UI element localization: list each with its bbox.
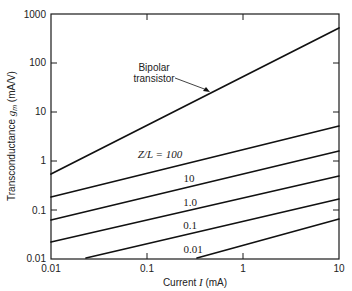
label-zl-100: Z/L = 100	[138, 148, 183, 160]
label-bipolar-1: Bipolar	[138, 62, 170, 73]
x-tick-10: 10	[333, 263, 345, 274]
y-tick-labels: 1000 100 10 1 0.1 0.01	[24, 9, 47, 264]
x-tick-0.01: 0.01	[41, 263, 61, 274]
label-zl-0.01: 0.01	[183, 243, 202, 255]
y-tick-1: 1	[40, 155, 46, 166]
line-zl-0.1	[86, 199, 339, 258]
annotations: Bipolar transistor Z/L = 100 10 1.0 0.1 …	[133, 62, 210, 255]
x-tick-0.1: 0.1	[140, 263, 154, 274]
y-tick-10: 10	[35, 106, 47, 117]
label-zl-10: 10	[184, 172, 196, 184]
y-tick-0.1: 0.1	[32, 205, 46, 216]
line-bipolar	[51, 28, 339, 174]
label-zl-1: 1.0	[183, 196, 197, 208]
line-zl-0.01	[197, 219, 339, 258]
y-tick-100: 100	[29, 57, 46, 68]
label-bipolar-2: transistor	[133, 73, 175, 84]
label-zl-0.1: 0.1	[183, 219, 197, 231]
x-axis-title: Current I (mA)	[163, 276, 227, 288]
y-axis-title: Transconductance gm (mA/V)	[5, 71, 18, 201]
y-tick-1000: 1000	[24, 9, 47, 20]
arrow-bipolar	[175, 78, 207, 90]
x-tick-1: 1	[240, 263, 246, 274]
x-tick-labels: 0.01 0.1 1 10	[41, 263, 345, 274]
transconductance-chart: 1000 100 10 1 0.1 0.01 0.01 0.1 1 10 Cur…	[0, 0, 352, 291]
arrowhead-icon	[203, 87, 210, 92]
